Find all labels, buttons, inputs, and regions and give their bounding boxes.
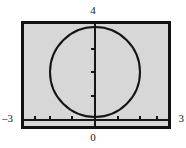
- y-axis-tick: [91, 95, 94, 97]
- y-axis: [94, 24, 96, 128]
- x-min-label: –3: [2, 113, 13, 124]
- x-axis-tick: [139, 116, 141, 119]
- plot-area: [24, 24, 168, 126]
- graphing-calculator-screen: 4 0 –3 3: [0, 0, 186, 148]
- y-max-label: 4: [0, 5, 186, 16]
- x-axis-tick: [34, 116, 36, 119]
- x-axis-tick: [117, 116, 119, 119]
- origin-label: 0: [0, 132, 186, 143]
- y-axis-tick: [91, 71, 94, 73]
- x-axis-tick: [71, 116, 73, 119]
- x-axis-tick: [49, 116, 51, 119]
- plot-frame: [21, 21, 171, 129]
- x-max-label: 3: [179, 113, 185, 124]
- x-axis: [24, 119, 168, 121]
- x-axis-tick: [156, 116, 158, 119]
- y-axis-tick: [91, 48, 94, 50]
